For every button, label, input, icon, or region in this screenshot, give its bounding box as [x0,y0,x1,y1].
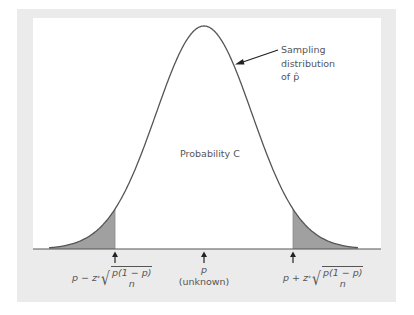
upper-bound-fraction: p(1 − p) n [322,266,364,289]
callout-line-2: distribution [281,57,335,71]
mean-label: p (unknown) [174,264,234,288]
denominator: n [129,278,135,289]
upper-tail-shaded-area [293,209,358,249]
probability-c-label: Probability C [180,147,240,161]
mean-arrow-icon [201,252,207,264]
callout-line-1: Sampling [281,43,335,57]
lower-bound-formula: p − z* √ p(1 − p) n [72,266,152,289]
upper-bound-formula: p + z* √ p(1 − p) n [283,266,363,289]
sampling-distribution-label: Sampling distribution of p̂ [281,43,335,84]
z-star: * [308,274,311,281]
upper-bound-lead: p + z [283,272,308,283]
denominator: n [340,278,346,289]
sqrt-icon: √ [312,267,321,288]
z-star: * [97,274,100,281]
mean-symbol: p [174,264,234,276]
lower-bound-lead: p − z [72,272,97,283]
sqrt-icon: √ [101,267,110,288]
lower-bound-fraction: p(1 − p) n [111,266,153,289]
upper-bound-arrow-icon [290,252,296,264]
numerator: p(1 − p) [112,267,152,278]
callout-arrow-icon [235,50,278,65]
lower-tail-shaded-area [49,209,115,249]
lower-bound-arrow-icon [112,252,118,264]
callout-line-3: of p̂ [281,70,335,84]
numerator: p(1 − p) [323,267,363,278]
mean-sublabel: (unknown) [174,276,234,288]
